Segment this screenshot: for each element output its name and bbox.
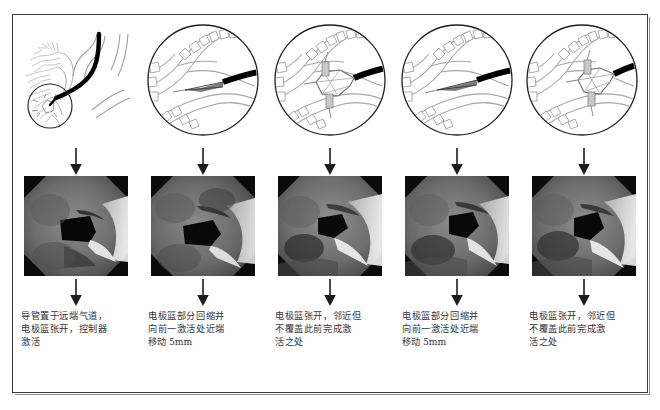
flow-arrow-down — [574, 277, 594, 307]
bronchoscopic-view-3 — [278, 176, 382, 276]
airway-magnified-diagram — [397, 18, 517, 146]
caption-line: 电极篮部分回缩并 — [402, 309, 516, 322]
airway-overview-diagram — [16, 18, 136, 146]
caption-line: 向前一激活处近端 — [148, 322, 262, 335]
caption-line: 电极篮张开，控制器 — [21, 322, 135, 335]
caption-line: 不覆盖此前完成激 — [275, 322, 389, 335]
flow-arrow-down — [193, 146, 213, 176]
bronchoscopic-view-5 — [532, 176, 636, 276]
flow-arrow-down — [320, 146, 340, 176]
caption-line: 激活 — [21, 335, 135, 348]
panel-caption: 电极篮部分回缩并 向前一激活处近端 移动 5mm — [398, 309, 516, 349]
caption-line: 活之处 — [529, 335, 643, 348]
caption-line: 向前一激活处近端 — [402, 322, 516, 335]
flow-arrow-down — [66, 277, 86, 307]
panel-1: 导管置于远端气道， 电极篮张开，控制器 激活 — [16, 18, 136, 349]
airway-magnified-diagram — [143, 18, 263, 146]
panel-columns: 导管置于远端气道， 电极篮张开，控制器 激活 — [16, 18, 644, 389]
panel-3: 电极篮张开，邻近但 不覆盖此前完成激 活之处 — [270, 18, 390, 349]
panel-caption: 电极篮张开，邻近但 不覆盖此前完成激 活之处 — [271, 309, 389, 349]
flow-arrow-down — [447, 146, 467, 176]
caption-line: 电极篮部分回缩并 — [148, 309, 262, 322]
caption-line: 不覆盖此前完成激 — [529, 322, 643, 335]
panel-4: 电极篮部分回缩并 向前一激活处近端 移动 5mm — [397, 18, 517, 349]
caption-line: 电极篮张开，邻近但 — [275, 309, 389, 322]
panel-caption: 电极篮张开，邻近但 不覆盖此前完成激 活之处 — [525, 309, 643, 349]
bronchoscopic-view-4 — [405, 176, 509, 276]
panel-caption: 导管置于远端气道， 电极篮张开，控制器 激活 — [17, 309, 135, 349]
airway-magnified-diagram — [524, 18, 644, 146]
flow-arrow-down — [193, 277, 213, 307]
flow-arrow-down — [574, 146, 594, 176]
caption-line: 移动 5mm — [148, 335, 262, 348]
panel-caption: 电极篮部分回缩并 向前一激活处近端 移动 5mm — [144, 309, 262, 349]
figure-root: 导管置于远端气道， 电极篮张开，控制器 激活 — [0, 0, 660, 410]
flow-arrow-down — [320, 277, 340, 307]
caption-line: 活之处 — [275, 335, 389, 348]
flow-arrow-down — [66, 146, 86, 176]
airway-magnified-diagram — [270, 18, 390, 146]
caption-line: 导管置于远端气道， — [21, 309, 135, 322]
panel-5: 电极篮张开，邻近但 不覆盖此前完成激 活之处 — [524, 18, 644, 349]
caption-line: 移动 5mm — [402, 335, 516, 348]
panel-2: 电极篮部分回缩并 向前一激活处近端 移动 5mm — [143, 18, 263, 349]
flow-arrow-down — [447, 277, 467, 307]
caption-line: 电极篮张开，邻近但 — [529, 309, 643, 322]
bronchoscopic-view-1 — [24, 176, 128, 276]
bronchoscopic-view-2 — [151, 176, 255, 276]
